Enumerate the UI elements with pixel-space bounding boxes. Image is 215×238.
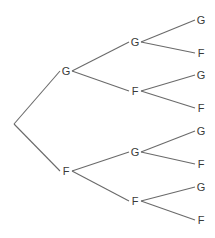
branch-edge (141, 152, 195, 164)
node-label-l1-f: F (63, 166, 70, 177)
branch-edge (141, 20, 195, 42)
node-label-l3-fff: F (198, 215, 205, 226)
node-label-l3-fgg: G (197, 126, 206, 137)
branch-edge (141, 201, 195, 220)
branch-edge (141, 75, 195, 91)
branch-edge (72, 71, 129, 91)
node-label-l3-ggf: F (198, 48, 205, 59)
node-label-l2-gg: G (131, 37, 140, 48)
branch-edge (14, 71, 60, 124)
node-label-l1-g: G (62, 66, 71, 77)
node-label-l2-gf: F (132, 86, 139, 97)
node-label-l3-gff: F (198, 103, 205, 114)
branch-edge (72, 152, 129, 171)
node-label-l2-fg: G (131, 147, 140, 158)
branch-edge (14, 124, 60, 171)
branch-edge (141, 187, 195, 201)
node-label-l3-ggg: G (197, 15, 206, 26)
tree-diagram (0, 0, 215, 238)
branch-edge (72, 42, 129, 71)
node-label-l2-ff: F (132, 196, 139, 207)
branch-edge (141, 91, 195, 108)
node-label-l3-gfg: G (197, 70, 206, 81)
node-label-l3-fgf: F (198, 159, 205, 170)
branch-edge (141, 131, 195, 152)
branch-edge (141, 42, 195, 53)
branch-edge (72, 171, 129, 201)
node-label-l3-ffg: G (197, 182, 206, 193)
